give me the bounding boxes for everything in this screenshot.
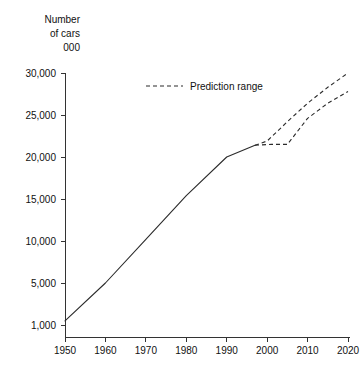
y-tick-label: 15,000 [25, 194, 56, 205]
y-axis-title-line-2: of cars [50, 28, 80, 39]
line-chart: Number of cars 000 1,0005,00010,00015,00… [0, 0, 362, 387]
y-axis: 1,0005,00010,00015,00020,00025,00030,000 [25, 68, 65, 338]
series-line [255, 73, 348, 145]
series-line [65, 145, 255, 321]
y-axis-title-line-3: 000 [63, 42, 80, 53]
x-tick-label: 1950 [54, 345, 77, 356]
y-axis-title-line-1: Number [44, 14, 80, 25]
x-tick-label: 2010 [296, 345, 319, 356]
x-tick-label: 2000 [256, 345, 279, 356]
x-tick-label: 2020 [337, 345, 360, 356]
y-tick-label: 30,000 [25, 68, 56, 79]
y-tick-label: 20,000 [25, 152, 56, 163]
series-layer [65, 73, 348, 321]
y-tick-label: 25,000 [25, 110, 56, 121]
y-tick-label: 10,000 [25, 236, 56, 247]
chart-legend: Prediction range [146, 81, 263, 92]
y-axis-title: Number of cars 000 [44, 14, 80, 53]
x-axis: 19501960197019801990200020102020 [54, 337, 360, 356]
series-line [255, 91, 348, 145]
x-tick-label: 1990 [216, 345, 239, 356]
x-tick-label: 1980 [175, 345, 198, 356]
chart-container: Number of cars 000 1,0005,00010,00015,00… [0, 0, 362, 387]
x-tick-label: 1960 [94, 345, 117, 356]
y-tick-label: 1,000 [31, 320, 56, 331]
x-tick-label: 1970 [135, 345, 158, 356]
legend-label-prediction-range: Prediction range [190, 81, 263, 92]
y-tick-label: 5,000 [31, 278, 56, 289]
